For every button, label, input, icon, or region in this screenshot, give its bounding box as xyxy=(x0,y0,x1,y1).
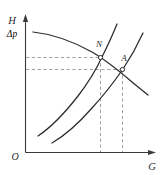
x-axis-label: G xyxy=(148,161,156,172)
y-axis-label-primary: H xyxy=(7,15,17,26)
x-axis-arrowhead xyxy=(148,150,156,155)
origin-label: O xyxy=(11,151,18,162)
characteristic-curve-plot: H Δp G O N A xyxy=(0,0,164,175)
figure-container: H Δp G O N A xyxy=(0,0,164,175)
y-axis-arrowhead xyxy=(23,14,28,22)
point-a-marker[interactable] xyxy=(120,67,124,71)
point-a-label: A xyxy=(120,53,127,63)
projection-guides-group xyxy=(26,58,123,153)
y-axis-label-secondary: Δp xyxy=(6,29,18,39)
point-n-label: N xyxy=(95,39,103,49)
curves-group xyxy=(33,24,148,143)
pump-characteristic-curve xyxy=(33,32,148,95)
system-resistance-curve-1 xyxy=(38,24,117,136)
system-resistance-curve-2 xyxy=(52,33,143,143)
point-n-marker[interactable] xyxy=(98,55,102,59)
labels-group: H Δp G O N A xyxy=(6,15,156,172)
